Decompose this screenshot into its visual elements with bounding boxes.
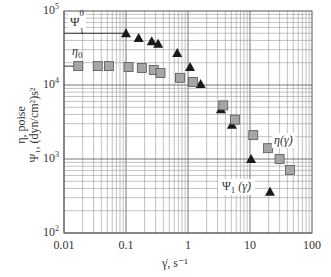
triangle-marker — [185, 62, 195, 71]
square-marker — [285, 166, 294, 175]
square-marker — [275, 155, 284, 164]
square-marker — [230, 115, 239, 124]
x-axis-label: γ̇, s⁻¹ — [162, 256, 188, 271]
triangle-marker — [246, 154, 256, 163]
grid — [64, 11, 312, 233]
square-marker — [188, 77, 197, 86]
square-marker — [156, 69, 165, 78]
x-tick-100: 100 — [303, 238, 321, 253]
x-tick-10: 10 — [244, 238, 256, 253]
y-tick-1e5: 105 — [43, 3, 59, 18]
square-marker — [175, 73, 184, 82]
annotation-psi1-curve: Ψ1 (γ̇) — [218, 179, 255, 195]
y-tick-1e4: 104 — [43, 77, 59, 92]
annotation-eta-zero: η0 — [70, 44, 84, 60]
x-tick-0.01: 0.01 — [54, 238, 75, 253]
square-marker — [93, 62, 102, 71]
annotation-eta-curve: η(γ̇) — [272, 133, 295, 148]
y-tick-1e3: 103 — [43, 151, 59, 166]
square-marker — [74, 62, 83, 71]
x-tick-0.1: 0.1 — [119, 238, 134, 253]
square-marker — [249, 131, 258, 140]
triangle-marker — [147, 36, 157, 45]
square-marker — [104, 62, 113, 71]
square-marker — [137, 63, 146, 72]
x-tick-1: 1 — [185, 238, 191, 253]
y-axis-label: η, poise Ψ₁, (dyn/cm²)s² — [15, 45, 41, 205]
square-marker — [219, 101, 228, 110]
square-marker — [124, 63, 133, 72]
triangle-marker — [134, 33, 144, 42]
y-axis-label-line2: Ψ₁, (dyn/cm²)s² — [28, 45, 41, 205]
annotation-psi1-zero: Ψ01 — [68, 14, 86, 32]
